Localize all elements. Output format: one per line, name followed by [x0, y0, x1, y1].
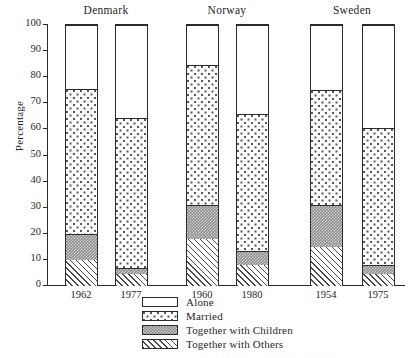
- y-tick-label: 20: [0, 226, 41, 237]
- segment-married: [66, 89, 97, 234]
- group-title-norway: Norway: [167, 4, 287, 16]
- group-title-denmark: Denmark: [46, 4, 166, 16]
- segment-together-with-children: [187, 205, 218, 239]
- stacked-bar-chart: Denmark Norway Sweden Percentage 1009080…: [0, 0, 414, 358]
- y-tick-mark: [43, 76, 48, 77]
- segment-together-with-others: [237, 265, 268, 286]
- segment-together-with-children: [237, 251, 268, 265]
- segment-together-with-children: [66, 234, 97, 260]
- segment-together-with-others: [363, 274, 394, 286]
- bar-norway-1980: [236, 24, 269, 286]
- segment-married: [311, 90, 342, 205]
- segment-together-with-others: [187, 239, 218, 286]
- y-tick-label: 70: [0, 95, 41, 106]
- y-tick-mark: [43, 233, 48, 234]
- y-tick-label: 40: [0, 174, 41, 185]
- group-title-sweden: Sweden: [292, 4, 412, 16]
- y-tick-mark: [43, 128, 48, 129]
- bar-denmark-1962: [65, 24, 98, 286]
- y-tick-label: 50: [0, 148, 41, 159]
- segment-together-with-children: [116, 268, 147, 275]
- bar-sweden-1954: [310, 24, 343, 286]
- bar-denmark-1977: [115, 24, 148, 286]
- segment-alone: [237, 25, 268, 114]
- y-tick-label: 60: [0, 121, 41, 132]
- y-tick-mark: [43, 50, 48, 51]
- legend: AloneMarriedTogether with ChildrenTogeth…: [142, 295, 293, 351]
- segment-married: [363, 128, 394, 265]
- bar-norway-1960: [186, 24, 219, 286]
- segment-alone: [363, 25, 394, 128]
- y-tick-mark: [43, 102, 48, 103]
- bar-sweden-1975: [362, 24, 395, 286]
- segment-together-with-others: [311, 247, 342, 286]
- segment-married: [187, 65, 218, 205]
- y-tick-label: 80: [0, 69, 41, 80]
- legend-label: Married: [186, 310, 223, 322]
- page-bleed-artifact: · · · · · · · · · · · · · ·: [206, 348, 411, 357]
- y-tick-label: 10: [0, 252, 41, 263]
- legend-item-alone: Alone: [142, 295, 293, 309]
- segment-alone: [66, 25, 97, 89]
- segment-alone: [116, 25, 147, 118]
- segment-alone: [311, 25, 342, 90]
- legend-item-together-with-children: Together with Children: [142, 323, 293, 337]
- segment-married: [237, 114, 268, 251]
- y-tick-mark: [43, 24, 48, 25]
- x-tick-label-1975: 1975: [348, 289, 408, 300]
- y-tick-label: 90: [0, 43, 41, 54]
- segment-married: [116, 118, 147, 268]
- y-tick-label: 30: [0, 200, 41, 211]
- segment-together-with-children: [311, 205, 342, 247]
- segment-alone: [187, 25, 218, 65]
- x-tick-label-1954: 1954: [296, 289, 356, 300]
- x-axis-line: [47, 285, 405, 286]
- y-tick-label: 0: [0, 278, 41, 289]
- legend-swatch-sparse-dots: [142, 311, 178, 322]
- y-tick-mark: [43, 155, 48, 156]
- legend-swatch-white-open: [142, 297, 178, 308]
- legend-swatch-dark-stipple: [142, 325, 178, 336]
- y-tick-mark: [43, 259, 48, 260]
- segment-together-with-others: [116, 274, 147, 286]
- y-tick-mark: [43, 207, 48, 208]
- y-tick-mark: [43, 181, 48, 182]
- segment-together-with-others: [66, 260, 97, 286]
- y-tick-label: 100: [0, 17, 41, 28]
- segment-together-with-children: [363, 265, 394, 274]
- legend-swatch-diagonal-hatch: [142, 339, 178, 350]
- legend-item-married: Married: [142, 309, 293, 323]
- legend-label: Together with Children: [186, 324, 293, 336]
- legend-label: Alone: [186, 296, 214, 308]
